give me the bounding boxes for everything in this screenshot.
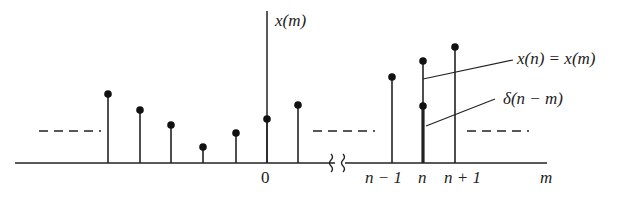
x-axis-label: m — [540, 168, 552, 188]
delta-stem-group — [419, 102, 427, 163]
origin-label: 0 — [261, 168, 270, 188]
axis-break-icon — [342, 154, 345, 172]
diagram-canvas: x(m) 0 n − 1 n n + 1 m x(n) = x(m) δ(n −… — [0, 0, 628, 199]
sample-dot — [388, 73, 396, 81]
sample-dot — [104, 90, 112, 98]
sample-dot — [199, 143, 207, 151]
sample-dot — [419, 102, 427, 110]
stems-left-group — [104, 90, 302, 163]
sample-dot — [451, 43, 459, 51]
annotation-x-equals: x(n) = x(m) — [517, 49, 595, 69]
leader-line-x — [423, 60, 513, 79]
tick-label-n: n — [418, 168, 427, 188]
sample-dot — [294, 101, 302, 109]
tick-label-n-minus-1: n − 1 — [365, 168, 402, 188]
sample-dot — [419, 57, 427, 65]
leader-line-delta — [426, 99, 495, 126]
tick-label-n-plus-1: n + 1 — [444, 168, 481, 188]
sample-dot — [232, 129, 240, 137]
sample-dot — [263, 115, 271, 123]
sample-dot — [136, 106, 144, 114]
sample-dot — [167, 121, 175, 129]
annotation-delta: δ(n − m) — [503, 89, 563, 109]
y-axis-label: x(m) — [275, 11, 306, 31]
